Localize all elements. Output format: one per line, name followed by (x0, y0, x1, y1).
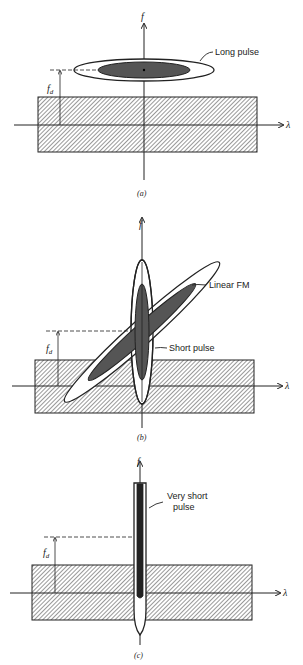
very-short-pulse-annotation-line2: pulse (173, 502, 195, 512)
f-axis-label: f (141, 11, 145, 22)
linear-fm-annotation: Linear FM (209, 280, 250, 290)
panel-a-caption: (a) (137, 189, 147, 198)
ambiguity-diagram-figure: fd f λ Long pulse (a) fd f λ Linear FM S… (0, 0, 303, 665)
lambda-axis-label: λ (285, 119, 291, 130)
lambda-axis-label: λ (284, 380, 290, 391)
short-pulse-annotation: Short pulse (169, 343, 215, 353)
very-short-pulse-annotation-line1: Very short (167, 491, 208, 501)
fd-label: fd (47, 83, 54, 96)
panel-a: fd f λ Long pulse (a) (14, 11, 291, 198)
panel-c: fd f λ Very short pulse (c) (10, 456, 288, 660)
long-pulse-annotation: Long pulse (215, 47, 259, 57)
very-short-pulse-inner-shape (137, 484, 143, 598)
panel-c-caption: (c) (134, 651, 143, 660)
lambda-axis-label: λ (282, 587, 288, 598)
panel-b-caption: (b) (137, 433, 147, 442)
fd-label: fd (43, 547, 50, 560)
fd-label: fd (46, 343, 53, 356)
panel-b: fd f λ Linear FM Short pulse (b) (12, 218, 290, 442)
